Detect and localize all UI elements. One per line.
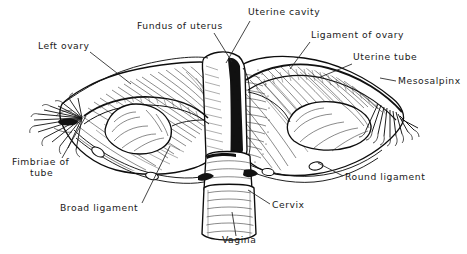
figure-canvas: Fundus of uterusUterine cavityLigament o… xyxy=(0,0,467,254)
label-uterine-cavity: Uterine cavity xyxy=(248,6,320,17)
label-fimbriae-of-tube-line2: tube xyxy=(30,167,53,178)
label-vagina: Vagina xyxy=(222,234,256,245)
label-fundus-of-uterus: Fundus of uterus xyxy=(137,20,223,31)
vagina-body xyxy=(202,184,256,240)
label-round-ligament: Round ligament xyxy=(345,171,425,182)
label-cervix: Cervix xyxy=(272,199,305,210)
label-mesosalpinx: Mesosalpinx xyxy=(398,75,461,86)
right-ovary-body xyxy=(287,102,371,151)
label-left-ovary: Left ovary xyxy=(38,40,90,51)
label-fimbriae-of-tube: Fimbriae of xyxy=(12,156,70,167)
label-uterine-tube: Uterine tube xyxy=(353,51,417,62)
label-ligament-of-ovary: Ligament of ovary xyxy=(311,29,404,40)
anatomical-figure: Fundus of uterusUterine cavityLigament o… xyxy=(0,0,467,254)
label-broad-ligament: Broad ligament xyxy=(60,202,138,213)
